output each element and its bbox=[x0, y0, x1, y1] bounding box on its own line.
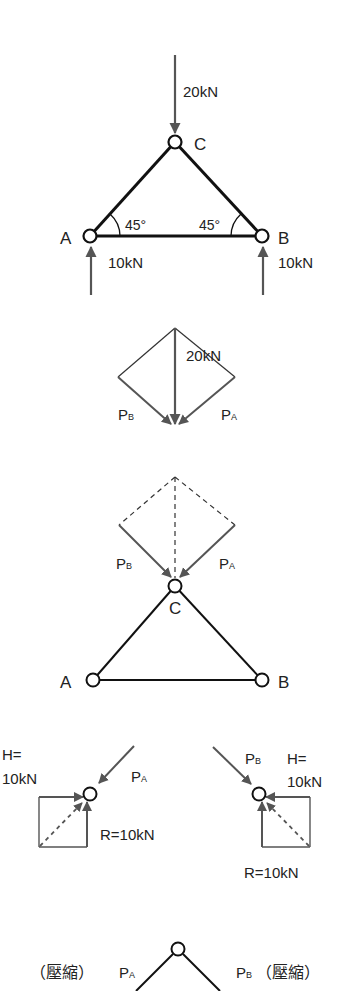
r-label: R=10kN bbox=[100, 826, 155, 843]
angle-right-label: 45° bbox=[199, 217, 220, 233]
member-bc bbox=[175, 586, 262, 680]
node-a bbox=[87, 674, 100, 687]
figure-5-member-forces: （壓縮） PA PB （壓縮） bbox=[30, 943, 320, 991]
vector-pa bbox=[99, 746, 134, 783]
node-b bbox=[256, 230, 269, 243]
dashed-right bbox=[175, 477, 235, 525]
truss-force-diagram: 20kN 45° 45° C A B 10kN 10kN 20kN PB PA bbox=[0, 0, 358, 991]
pb-label: PB bbox=[236, 964, 252, 981]
angle-arc-right bbox=[231, 214, 241, 236]
node-b-label: B bbox=[278, 229, 289, 248]
load-label: 20kN bbox=[183, 83, 218, 100]
h-label-line2: 10kN bbox=[2, 770, 37, 787]
pa-label: PA bbox=[221, 406, 237, 423]
pb-label: PB bbox=[245, 750, 261, 767]
figure-3-truss-with-components: PB PA C A B bbox=[60, 477, 289, 692]
reaction-a-label: 10kN bbox=[108, 254, 143, 271]
h-label-line1: H= bbox=[287, 750, 307, 767]
left-compression-note: （壓縮） bbox=[30, 964, 94, 981]
member-ac bbox=[93, 586, 175, 680]
pb-label: PB bbox=[116, 555, 132, 572]
node-c-label: C bbox=[194, 135, 206, 154]
node-a-label: A bbox=[60, 229, 72, 248]
figure-4-joint-b: PB H= 10kN R=10kN bbox=[213, 747, 322, 881]
pa-label: PA bbox=[119, 964, 135, 981]
diamond-top-left bbox=[118, 328, 175, 377]
figure-2-force-polygon: 20kN PB PA bbox=[118, 328, 237, 424]
pa-label: PA bbox=[131, 768, 147, 785]
figure-4-joint-a: H= 10kN PA R=10kN bbox=[2, 746, 155, 847]
figure-1-truss: 20kN 45° 45° C A B 10kN 10kN bbox=[60, 55, 313, 295]
pa-label: PA bbox=[219, 555, 235, 572]
node-b bbox=[253, 788, 266, 801]
right-compression-note: （壓縮） bbox=[256, 964, 320, 981]
r-label: R=10kN bbox=[244, 864, 299, 881]
node-a-label: A bbox=[60, 673, 72, 692]
member-right bbox=[183, 954, 220, 991]
node-a bbox=[84, 230, 97, 243]
pb-label: PB bbox=[118, 406, 134, 423]
node-c-label: C bbox=[169, 599, 181, 618]
h-label-line2: 10kN bbox=[287, 773, 322, 790]
h-label-line1: H= bbox=[2, 746, 22, 763]
resultant-dashed bbox=[40, 803, 82, 846]
load-label: 20kN bbox=[186, 347, 221, 364]
dashed-left bbox=[119, 477, 175, 525]
node-b-label: B bbox=[278, 673, 289, 692]
node-c bbox=[172, 943, 185, 956]
node-b bbox=[256, 674, 269, 687]
node-a bbox=[84, 788, 97, 801]
node-c bbox=[169, 136, 182, 149]
reaction-b-label: 10kN bbox=[278, 254, 313, 271]
angle-left-label: 45° bbox=[125, 217, 146, 233]
node-c bbox=[169, 580, 182, 593]
resultant-dashed bbox=[267, 803, 309, 846]
member-left bbox=[136, 954, 173, 991]
angle-arc-left bbox=[110, 214, 120, 236]
